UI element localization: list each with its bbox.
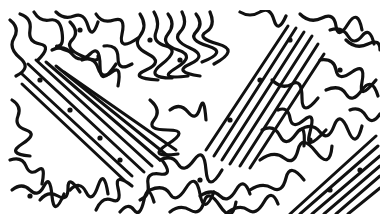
pattern-image xyxy=(0,0,387,224)
labyrinth-pattern xyxy=(0,0,387,224)
diagonal-band-lower-right xyxy=(290,136,380,214)
